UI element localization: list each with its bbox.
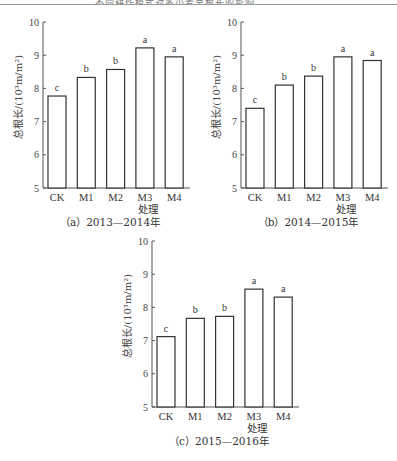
y-tick-label: 5 xyxy=(34,183,39,194)
y-tick-label: 10 xyxy=(138,236,148,247)
y-tick-label: 8 xyxy=(232,83,237,94)
significance-letter: c xyxy=(253,94,258,105)
y-axis-label: 总根长/(10³m/m²) xyxy=(210,55,222,139)
bar-m2 xyxy=(107,69,125,188)
significance-letter: c xyxy=(55,82,60,93)
significance-letter: b xyxy=(222,302,227,313)
y-tick-label: 7 xyxy=(232,116,237,127)
bar-m1 xyxy=(186,318,204,407)
x-tick-label: M1 xyxy=(277,192,292,203)
significance-letter: b xyxy=(311,62,316,73)
bar-m3 xyxy=(334,57,352,188)
y-tick-label: 5 xyxy=(232,183,237,194)
y-tick-label: 9 xyxy=(232,50,237,61)
significance-letter: a xyxy=(172,43,177,54)
x-tick-label: M4 xyxy=(276,411,291,422)
x-axis-label: 处理 xyxy=(138,203,159,215)
chart-caption: （c）2015—2016年 xyxy=(169,435,269,447)
y-tick-label: 6 xyxy=(34,149,39,160)
bar-m3 xyxy=(245,289,263,407)
y-tick-label: 6 xyxy=(143,368,148,379)
bar-m3 xyxy=(136,48,154,188)
y-tick-label: 9 xyxy=(34,50,39,61)
significance-letter: b xyxy=(84,63,89,74)
y-tick-label: 8 xyxy=(143,302,148,313)
x-tick-label: M2 xyxy=(108,192,123,203)
bar-chart-svg: 5678910总根长/(10³m/m²)cCKbM1bM2aM3aM4处理（b）… xyxy=(198,0,396,230)
y-tick-label: 9 xyxy=(143,269,148,280)
bar-m4 xyxy=(274,297,292,407)
bar-chart-svg: 5678910总根长/(10³m/m²)cCKbM1bM2aM3aM4处理（a）… xyxy=(0,0,198,230)
significance-letter: c xyxy=(164,323,169,334)
bar-chart-svg: 5678910总根长/(10³m/m²)cCKbM1bM2aM3aM4处理（c）… xyxy=(109,219,307,449)
y-tick-label: 5 xyxy=(143,402,148,413)
chart-panel-b: 5678910总根长/(10³m/m²)cCKbM1bM2aM3aM4处理（b）… xyxy=(198,0,396,230)
x-tick-label: M1 xyxy=(188,411,203,422)
chart-panel-c: 5678910总根长/(10³m/m²)cCKbM1bM2aM3aM4处理（c）… xyxy=(109,219,307,449)
bar-m1 xyxy=(77,77,95,188)
bar-m2 xyxy=(216,316,234,407)
x-tick-label: M3 xyxy=(138,192,153,203)
x-tick-label: M3 xyxy=(247,411,262,422)
x-tick-label: CK xyxy=(50,192,65,203)
bar-m4 xyxy=(363,61,381,188)
x-tick-label: M1 xyxy=(79,192,94,203)
chart-panel-a: 5678910总根长/(10³m/m²)cCKbM1bM2aM3aM4处理（a）… xyxy=(0,0,198,230)
y-tick-label: 10 xyxy=(29,17,39,28)
x-axis-label: 处理 xyxy=(247,422,268,434)
x-axis-label: 处理 xyxy=(336,203,357,215)
bar-ck xyxy=(157,337,175,407)
significance-letter: a xyxy=(341,43,346,54)
y-tick-label: 8 xyxy=(34,83,39,94)
y-tick-label: 10 xyxy=(227,17,237,28)
bar-ck xyxy=(246,108,264,188)
y-tick-label: 6 xyxy=(232,149,237,160)
significance-letter: a xyxy=(252,275,257,286)
significance-letter: b xyxy=(282,71,287,82)
significance-letter: a xyxy=(281,283,286,294)
x-tick-label: CK xyxy=(159,411,174,422)
y-tick-label: 7 xyxy=(34,116,39,127)
bar-ck xyxy=(48,96,66,188)
x-tick-label: M3 xyxy=(336,192,351,203)
x-tick-label: M2 xyxy=(306,192,321,203)
bar-m2 xyxy=(305,76,323,188)
significance-letter: b xyxy=(193,304,198,315)
x-tick-label: M2 xyxy=(217,411,232,422)
significance-letter: b xyxy=(113,55,118,66)
y-tick-label: 7 xyxy=(143,335,148,346)
significance-letter: a xyxy=(370,47,375,58)
significance-letter: a xyxy=(143,34,148,45)
y-axis-label: 总根长/(10³m/m²) xyxy=(121,274,133,358)
x-tick-label: CK xyxy=(248,192,263,203)
x-tick-label: M4 xyxy=(167,192,182,203)
x-tick-label: M4 xyxy=(365,192,380,203)
y-axis-label: 总根长/(10³m/m²) xyxy=(12,55,24,139)
bar-m4 xyxy=(165,57,183,188)
bar-m1 xyxy=(275,85,293,188)
